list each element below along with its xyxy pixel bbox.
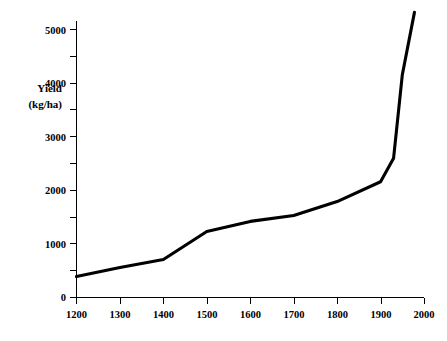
yield-line-chart: 0 1000 2000 3000 4000 5000 1200 1300 140… [0,0,447,341]
x-tick-label-2000: 2000 [414,309,435,320]
y-tick-marks [70,30,76,298]
x-tick-label-1300: 1300 [110,309,131,320]
x-tick-label-1600: 1600 [240,309,261,320]
x-tick-label-1200: 1200 [66,309,87,320]
x-tick-label-1400: 1400 [153,309,174,320]
y-axis-title-line1: Yield [37,82,62,94]
y-tick-label-3000: 3000 [45,132,66,143]
x-tick-label-1500: 1500 [197,309,218,320]
x-tick-marks [77,298,425,305]
x-tick-label-1900: 1900 [371,309,392,320]
y-tick-label-5000: 5000 [45,25,66,36]
y-tick-label-2000: 2000 [45,185,66,196]
y-axis-title-line2: (kg/ha) [28,98,62,111]
plot-area [76,12,424,297]
y-tick-label-1000: 1000 [45,239,66,250]
chart-canvas: 0 1000 2000 3000 4000 5000 1200 1300 140… [0,0,447,341]
x-tick-label-1700: 1700 [284,309,305,320]
x-tick-label-1800: 1800 [327,309,348,320]
y-tick-label-0: 0 [61,292,66,303]
